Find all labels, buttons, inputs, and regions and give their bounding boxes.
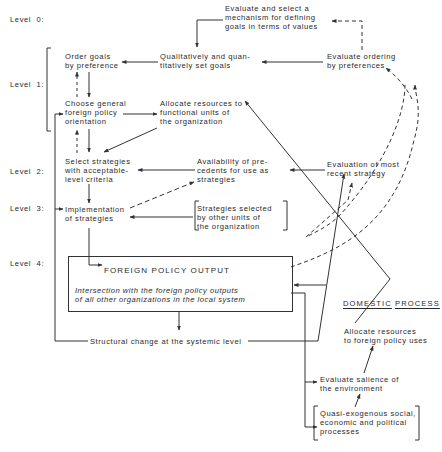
diagram-connectors — [0, 0, 442, 452]
